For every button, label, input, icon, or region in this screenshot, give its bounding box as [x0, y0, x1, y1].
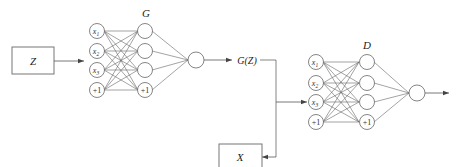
- disc-hidden-bias-label: +1: [363, 118, 372, 127]
- discriminator-connections: [323, 62, 409, 122]
- generator-output-label: G(Z): [237, 55, 257, 67]
- gan-diagram: Z x1 x2 x3 +1 +1 G G(Z) X: [0, 0, 457, 167]
- discriminator-output-node: [409, 85, 425, 101]
- gz-routing-line: [260, 60, 276, 157]
- disc-bias-label: +1: [312, 118, 321, 127]
- noise-input-box: Z: [12, 47, 54, 74]
- real-data-label: X: [236, 151, 245, 163]
- generator-connections: [104, 31, 188, 90]
- real-data-box: X: [219, 144, 262, 167]
- generator-label: G: [142, 7, 150, 19]
- discriminator-label: D: [362, 39, 371, 51]
- generator-output-node: [188, 52, 204, 68]
- noise-input-label: Z: [30, 55, 37, 67]
- gen-hidden-bias-label: +1: [141, 86, 150, 95]
- gen-bias-label: +1: [93, 86, 102, 95]
